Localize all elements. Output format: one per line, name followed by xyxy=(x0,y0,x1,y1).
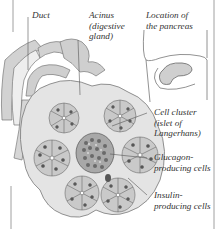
label-acinus: Acinus (digestive gland) xyxy=(89,10,125,42)
label-location-of-pancreas: Location of the pancreas xyxy=(146,10,193,31)
acinus-bottom-right xyxy=(101,178,135,212)
label-glucagon-cells: Glucagon- producing cells xyxy=(154,152,211,173)
acinus-top-left xyxy=(49,103,79,133)
pancreas-diagram: Duct Acinus (digestive gland) Location o… xyxy=(0,0,217,229)
acinus-right xyxy=(122,137,158,173)
label-islet-of-langerhans: Cell cluster (islet of Langerhans) xyxy=(154,107,201,139)
acinus-bottom-left xyxy=(65,176,99,210)
acinus-left xyxy=(34,140,70,176)
acinus-top-right xyxy=(104,100,136,132)
torso-inset xyxy=(143,30,207,102)
islet-of-langerhans xyxy=(76,133,114,173)
blood-vessel xyxy=(105,174,111,182)
label-duct: Duct xyxy=(32,10,50,21)
label-insulin-cells: Insulin- producing cells xyxy=(154,190,211,211)
